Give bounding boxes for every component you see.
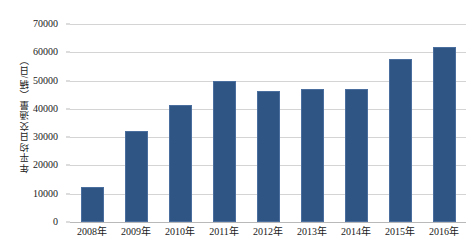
- bar[interactable]: [433, 47, 456, 222]
- y-axis-tick-label: 20000: [0, 160, 64, 170]
- bar[interactable]: [257, 91, 280, 222]
- y-axis-tick-label: 50000: [0, 76, 64, 86]
- bar[interactable]: [125, 131, 148, 222]
- bar[interactable]: [213, 81, 236, 222]
- y-axis-tick-label: 30000: [0, 132, 64, 142]
- bar[interactable]: [345, 89, 368, 222]
- bar[interactable]: [169, 105, 192, 222]
- bar[interactable]: [389, 59, 412, 222]
- y-axis-tick-labels: 010000200003000040000500006000070000: [0, 0, 64, 250]
- y-axis-tick-label: 40000: [0, 104, 64, 114]
- x-axis-tick-labels: 2008年2009年2010年2011年2012年2013年2014年2015年…: [70, 226, 466, 246]
- y-axis-tick-label: 70000: [0, 19, 64, 29]
- gridline: [70, 222, 466, 223]
- y-axis-tick-label: 10000: [0, 189, 64, 199]
- x-axis-tick-label: 2016年: [414, 226, 474, 238]
- bar[interactable]: [301, 89, 324, 222]
- y-axis-tick-label: 60000: [0, 47, 64, 57]
- plot-area: [70, 24, 466, 222]
- y-axis-tick-label: 0: [0, 217, 64, 227]
- bar-chart: 年平均日交通量（辆/日） 010000200003000040000500006…: [0, 0, 475, 250]
- bar[interactable]: [81, 187, 104, 222]
- bars-layer: [70, 24, 466, 222]
